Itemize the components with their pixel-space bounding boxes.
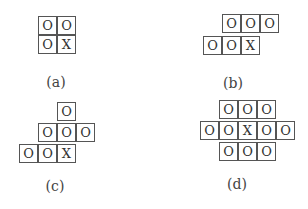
grid-cell-o: O [38,16,57,35]
grid-cell-o: O [219,100,238,119]
grid-cell-x: X [238,121,257,140]
grid-cell-o: O [260,14,279,33]
grid-cell-o: O [238,100,257,119]
grid-cell-o: O [57,102,76,121]
grid-cell-o: O [219,121,238,140]
grid-cell-o: O [276,121,295,140]
grid-cell-o: O [38,35,57,54]
grid-cell-x: X [241,36,260,55]
grid-cell-o: O [76,123,95,142]
grid-cell-x: X [57,144,76,163]
grid-cell-o: O [57,16,76,35]
grid-cell-o: O [19,144,38,163]
panel-label: (c) [46,178,65,194]
grid-cell-o: O [38,144,57,163]
grid-cell-o: O [219,142,238,161]
panel-label: (b) [223,75,243,91]
grid-cell-o: O [222,36,241,55]
grid-cell-o: O [203,36,222,55]
grid-cell-o: O [222,14,241,33]
grid-cell-o: O [257,142,276,161]
grid-cell-o: O [257,121,276,140]
grid-cell-o: O [38,123,57,142]
panel-label: (d) [227,176,247,192]
grid-cell-o: O [238,142,257,161]
grid-cell-o: O [57,123,76,142]
grid-cell-o: O [241,14,260,33]
grid-cell-o: O [200,121,219,140]
panel-label: (a) [46,74,65,90]
grid-cell-o: O [257,100,276,119]
grid-cell-x: X [57,35,76,54]
